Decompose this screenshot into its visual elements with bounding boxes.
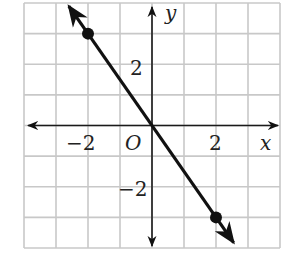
origin-label: O: [125, 131, 141, 155]
data-point: [82, 28, 94, 40]
y-axis-label: y: [164, 1, 177, 25]
y-tick-2: 2: [130, 56, 143, 80]
data-point: [210, 211, 222, 223]
x-axis-label: x: [260, 131, 271, 155]
axis-labels: x y O −2 2 2 −2: [66, 1, 271, 201]
coordinate-plane: x y O −2 2 2 −2: [0, 0, 295, 266]
y-tick-neg2: −2: [118, 177, 147, 201]
x-tick-neg2: −2: [66, 131, 95, 155]
x-tick-2: 2: [209, 131, 222, 155]
